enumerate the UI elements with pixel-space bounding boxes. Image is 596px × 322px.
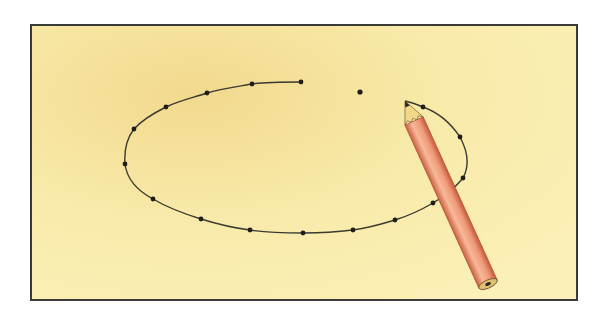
isolated-dot [357,89,362,94]
dot [151,197,156,202]
dot [132,127,137,132]
dot [250,82,255,87]
dot [248,228,253,233]
dot [458,135,463,140]
dot [461,176,466,181]
dot [351,228,356,233]
dot [301,231,306,236]
dot [123,162,128,167]
dot [431,201,436,206]
ellipse-drawing-illustration [0,0,596,322]
dot [393,218,398,223]
dot [421,105,426,110]
dot [205,91,210,96]
paper-frame [31,25,577,300]
dot [299,80,304,85]
dot [164,105,169,110]
dot [199,217,204,222]
